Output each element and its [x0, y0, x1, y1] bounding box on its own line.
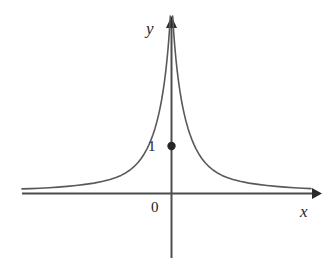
curve-right-branch [173, 16, 311, 189]
y-axis-arrowhead [166, 16, 177, 28]
curve-left-branch [22, 16, 170, 189]
y-tick-label-one: 1 [148, 139, 156, 154]
x-axis-arrowhead [312, 188, 322, 199]
plot-canvas [0, 0, 333, 262]
origin-label: 0 [151, 200, 159, 215]
point-marker-one [167, 142, 175, 150]
graph-figure: y x 1 0 [0, 0, 333, 262]
y-axis-label: y [146, 20, 154, 37]
x-axis-label: x [300, 203, 308, 220]
